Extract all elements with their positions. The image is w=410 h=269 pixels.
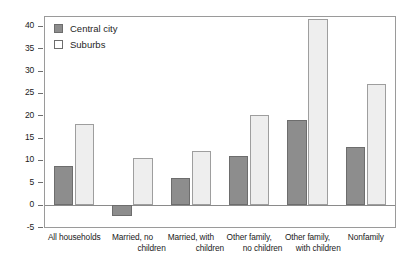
y-axis-tick-label: 20 [10, 111, 34, 119]
x-axis-label-line1: Married, with [168, 232, 214, 242]
y-axis-tick-mark [38, 160, 43, 161]
legend-item-1: Suburbs [54, 36, 118, 52]
bar-central-1 [112, 205, 132, 216]
y-axis-tick-mark [38, 227, 43, 228]
legend-label: Suburbs [70, 39, 105, 50]
x-axis-label-line1: Nonfamily [348, 232, 384, 242]
y-axis-tick-label: 35 [10, 44, 34, 52]
y-axis-tick-mark [38, 71, 43, 72]
y-axis-tick-label: -5 [10, 223, 34, 231]
y-axis-tick-mark [38, 205, 43, 206]
zero-baseline [45, 205, 395, 206]
x-axis-label-3: Other family,no children [216, 232, 282, 253]
x-axis-label-line2: children [158, 243, 224, 254]
y-axis-tick-mark [38, 26, 43, 27]
x-axis-labels: All householdsMarried, nochildrenMarried… [45, 232, 395, 266]
bar-suburb-4 [308, 19, 328, 204]
y-axis-tick-label: 40 [10, 21, 34, 29]
x-axis-label-line2: no children [216, 243, 282, 254]
bar-central-2 [171, 178, 191, 205]
x-axis-label-line2: children [99, 243, 165, 254]
x-axis-label-line2: with children [274, 243, 340, 254]
y-axis-tick-mark [38, 48, 43, 49]
bar-central-4 [287, 120, 307, 205]
y-axis-tick-mark [38, 115, 43, 116]
x-axis-label-line1: Married, no [112, 232, 153, 242]
x-axis-label-line1: Other family, [227, 232, 272, 242]
chart-legend: Central citySuburbs [54, 20, 118, 52]
bar-suburb-0 [75, 124, 95, 204]
y-axis-tick-label: 5 [10, 178, 34, 186]
x-axis-label-line1: Other family, [285, 232, 330, 242]
y-axis-tick-label: 30 [10, 66, 34, 74]
bar-central-5 [346, 147, 366, 205]
legend-item-0: Central city [54, 20, 118, 36]
y-axis-tick-mark [38, 138, 43, 139]
x-axis-label-2: Married, withchildren [158, 232, 224, 253]
y-axis-tick-label: 25 [10, 88, 34, 96]
y-axis-tick-label: 0 [10, 200, 34, 208]
bar-suburb-3 [250, 115, 270, 204]
bar-central-3 [229, 156, 249, 205]
x-axis-label-line1: All households [48, 232, 101, 242]
bar-suburb-2 [192, 151, 212, 205]
bar-chart: 4035302520151050-5 Central citySuburbs A… [0, 0, 410, 269]
x-axis-label-1: Married, nochildren [99, 232, 165, 253]
bar-suburb-1 [133, 158, 153, 205]
y-axis-tick-label: 10 [10, 155, 34, 163]
filled-gray-square-icon [54, 24, 63, 33]
y-axis-tick-mark [38, 93, 43, 94]
bar-central-0 [54, 166, 74, 205]
x-axis-label-4: Other family,with children [274, 232, 340, 253]
y-axis-tick-mark [38, 182, 43, 183]
bar-suburb-5 [367, 84, 387, 205]
empty-white-square-icon [54, 40, 63, 49]
x-axis-label-5: Nonfamily [333, 232, 399, 243]
x-axis-label-0: All households [41, 232, 107, 243]
legend-label: Central city [70, 23, 118, 34]
y-axis-tick-label: 15 [10, 133, 34, 141]
